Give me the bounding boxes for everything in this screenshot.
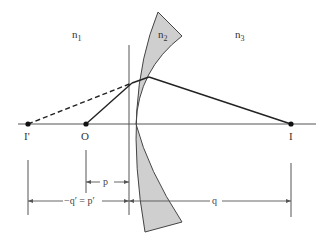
label-n3: n3 [235, 28, 245, 43]
ray-virtual-extension [28, 83, 132, 124]
lens-n2 [136, 12, 182, 232]
label-image: I [289, 130, 293, 142]
label-q-prime-eq-p-prime: −q′ = p′ [64, 195, 95, 206]
ray-incident [86, 83, 132, 124]
point-object [83, 121, 88, 126]
point-image [288, 121, 293, 126]
label-image-prime: I' [24, 130, 30, 142]
label-object: O [81, 130, 89, 142]
label-q: q [212, 195, 217, 206]
label-n1: n1 [72, 28, 82, 43]
ray-refracted [149, 77, 291, 124]
refraction-diagram: I' O I n1 n2 n3 p −q′ = p′ q [0, 0, 328, 235]
label-p: p [103, 176, 108, 187]
point-image-prime [25, 121, 30, 126]
